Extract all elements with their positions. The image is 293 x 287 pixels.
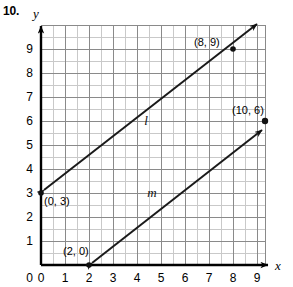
x-tick-labels: 0 1 2 3 4 5 6 7 8 9: [38, 271, 261, 285]
line-l-label: l: [144, 113, 148, 128]
y-tick-label: 8: [26, 66, 33, 80]
point-marker-2-0: [86, 262, 92, 268]
x-tick-label: 5: [158, 271, 165, 285]
y-tick-labels: 0 1 2 3 4 5 6 7 8 9: [26, 42, 33, 285]
y-tick-label: 3: [26, 186, 33, 200]
line-m: [92, 130, 262, 263]
x-tick-label: 6: [182, 271, 189, 285]
point-marker-10-6: [262, 118, 268, 124]
y-tick-label: 2: [26, 210, 33, 224]
annotation-point-8-9: (8, 9): [194, 36, 220, 48]
x-tick-label: 3: [110, 271, 117, 285]
y-tick-label: 6: [26, 114, 33, 128]
x-tick-label: 1: [62, 271, 69, 285]
y-tick-label: 0: [26, 271, 33, 285]
y-axis-label: y: [31, 6, 39, 21]
y-tick-label: 4: [26, 162, 33, 176]
annotation-point-0-3: (0, 3): [44, 195, 70, 207]
x-tick-label: 2: [86, 271, 93, 285]
line-m-label: m: [147, 185, 156, 200]
y-tick-label: 5: [26, 138, 33, 152]
y-tick-label: 7: [26, 90, 33, 104]
x-axis-label: x: [274, 258, 281, 273]
point-marker-8-9: [230, 46, 236, 52]
y-tick-label: 9: [26, 42, 33, 56]
annotation-point-10-6: (10, 6): [232, 104, 264, 116]
coordinate-plane-figure: y x 0 1 2 3 4 5 6 7 8 9 0 1 2 3 4 5 6 7 …: [0, 0, 293, 287]
x-tick-label: 0: [38, 271, 45, 285]
x-tick-label: 7: [206, 271, 213, 285]
y-tick-label: 1: [26, 234, 33, 248]
x-tick-label: 9: [254, 271, 261, 285]
x-tick-label: 4: [134, 271, 141, 285]
x-tick-label: 8: [230, 271, 237, 285]
annotation-point-2-0: (2, 0): [63, 245, 89, 257]
point-marker-0-3: [38, 190, 44, 196]
figure-page: 10.: [0, 0, 293, 287]
